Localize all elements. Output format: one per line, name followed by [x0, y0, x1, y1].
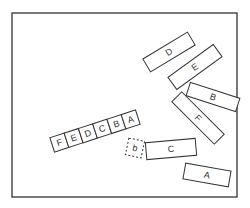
diagram-canvas: DEBFCA b FEDCBA	[0, 0, 250, 208]
block-a: A	[183, 163, 231, 187]
block-c: C	[145, 138, 196, 159]
blocks-group: DEBFCA	[143, 32, 240, 187]
dashed-block-b: b	[125, 138, 144, 158]
block-b-dashed: b	[125, 138, 144, 158]
letter-strip: FEDCBA	[50, 110, 140, 152]
